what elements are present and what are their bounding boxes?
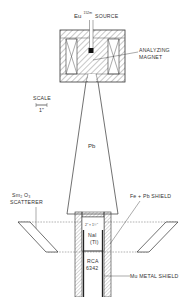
crystal-size-label: 2" × 1½" [85,223,99,227]
source-word-text: SOURCE [95,13,119,19]
scale-indicator: SCALE 1" [33,95,51,113]
pmt-label-line1: RCA [87,258,99,264]
detector-assembly: 2" × 1½" NaI (Tl) RCA 6342 [75,212,111,297]
right-scatterer [137,222,178,252]
magnet-label-line2: MAGNET [139,54,163,60]
magnet-label-line1: ANALYZING [139,47,170,53]
scale-unit: 1" [39,107,44,113]
mu-shield-label: Mu METAL SHIELD [130,273,179,279]
source-element-text: Eu [74,13,81,19]
pmt-label-line2: 6342 [86,265,98,271]
lead-cone-label: Pb [88,143,96,149]
right-shield-wall [104,212,111,297]
crystal-label-line2: (Tl) [90,239,99,245]
top-shield-cap [82,212,104,217]
left-scatterer [18,222,58,252]
experimental-setup-diagram: Eu 152m SOURCE ANALYZING MAGNET SCALE [0,0,196,297]
source-block [89,48,94,53]
crystal-label-line1: NaI [88,232,97,238]
shield-label: Fe + Pb SHIELD [130,193,171,199]
scatterer-label-line2: SCATTERER [10,199,43,205]
lead-cone: Pb [67,82,118,214]
source-label: Eu 152m SOURCE [74,11,119,20]
scatterer-label-line1: Sm₂ O₃ [12,192,31,198]
left-shield-wall [75,212,82,297]
analyzing-magnet [60,20,125,83]
source-isotope-text: 152m [84,11,93,15]
scale-title: SCALE [33,95,51,101]
